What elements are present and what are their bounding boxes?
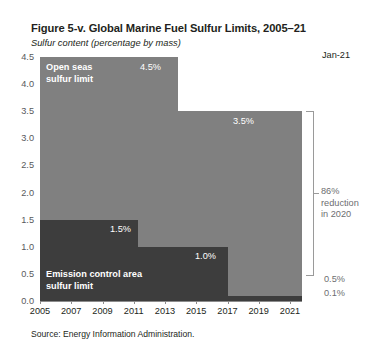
y-tick-4: 2.0 <box>0 188 34 198</box>
x-tick-8: 2021 <box>280 306 300 316</box>
reduction-annotation-line2: reduction <box>321 198 376 210</box>
y-tick-7: 3.5 <box>0 106 34 116</box>
x-tick-1: 2007 <box>61 306 81 316</box>
x-tick-mark-0 <box>40 301 41 304</box>
x-tick-mark-7 <box>259 301 260 304</box>
reduction-annotation-line3: in 2020 <box>321 209 376 221</box>
source-note: Source: Energy Information Administratio… <box>31 329 194 339</box>
plot-area: Open seas sulfur limit Emission control … <box>40 57 302 301</box>
datapoint-eca-1-5: 1.5% <box>110 224 131 234</box>
y-tick-5: 2.5 <box>0 160 34 170</box>
y-tick-9: 4.5 <box>0 52 34 62</box>
open-seas-series-label-line1: Open seas <box>46 62 93 74</box>
x-tick-mark-6 <box>228 301 229 304</box>
eca-series-label: Emission control area sulfur limit <box>46 269 142 292</box>
open-seas-series-label: Open seas sulfur limit <box>46 62 93 85</box>
x-tick-2: 2009 <box>92 306 112 316</box>
x-tick-mark-8 <box>290 301 291 304</box>
y-tick-1: 0.5 <box>0 269 34 279</box>
eca-series-label-line2: sulfur limit <box>46 281 142 293</box>
date-note: Jan-21 <box>322 50 350 60</box>
figure-container: Figure 5-v. Global Marine Fuel Sulfur Li… <box>0 0 376 360</box>
x-tick-mark-4 <box>165 301 166 304</box>
figure-subtitle: Sulfur content (percentage by mass) <box>31 38 181 48</box>
reduction-annotation-line1: 86% <box>321 186 376 198</box>
datapoint-eca-0-1: 0.1% <box>324 288 345 298</box>
eca-series-label-line1: Emission control area <box>46 269 142 281</box>
y-tick-0: 0.0 <box>0 296 34 306</box>
x-tick-6: 2017 <box>217 306 237 316</box>
reduction-bracket-stem <box>313 193 319 194</box>
y-tick-8: 4.0 <box>0 79 34 89</box>
x-tick-4: 2013 <box>155 306 175 316</box>
x-axis-line <box>40 301 302 302</box>
y-tick-6: 3.0 <box>0 133 34 143</box>
datapoint-open-seas-0-5: 0.5% <box>324 274 345 284</box>
datapoint-open-seas-4-5: 4.5% <box>140 62 161 72</box>
datapoint-eca-1-0: 1.0% <box>195 251 216 261</box>
y-tick-3: 1.5 <box>0 215 34 225</box>
x-tick-mark-1 <box>71 301 72 304</box>
y-tick-2: 1.0 <box>0 242 34 252</box>
x-tick-7: 2019 <box>248 306 268 316</box>
x-tick-mark-5 <box>196 301 197 304</box>
x-tick-5: 2015 <box>186 306 206 316</box>
x-tick-3: 2011 <box>124 306 144 316</box>
open-seas-series-label-line2: sulfur limit <box>46 74 93 86</box>
reduction-annotation: 86% reduction in 2020 <box>321 186 376 221</box>
datapoint-open-seas-3-5: 3.5% <box>233 116 254 126</box>
x-tick-mark-3 <box>134 301 135 304</box>
x-tick-mark-2 <box>103 301 104 304</box>
x-tick-0: 2005 <box>30 306 50 316</box>
figure-title: Figure 5-v. Global Marine Fuel Sulfur Li… <box>31 22 306 34</box>
